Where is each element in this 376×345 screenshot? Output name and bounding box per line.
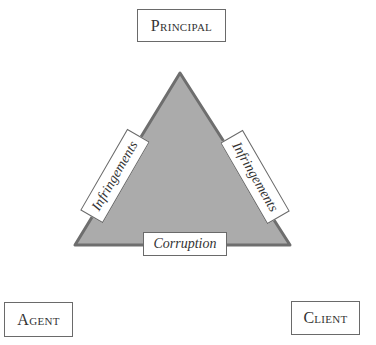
bottom-edge-label-box: Corruption (143, 232, 227, 256)
bottom-edge-label: Corruption (153, 236, 216, 252)
triangle (0, 0, 376, 345)
agent-node: Agent (4, 302, 73, 337)
client-node: Client (291, 301, 360, 335)
agent-label: Agent (17, 311, 59, 329)
client-label: Client (303, 309, 347, 327)
